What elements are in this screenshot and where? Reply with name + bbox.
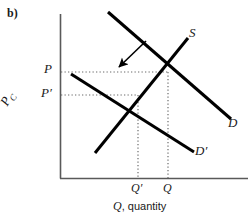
quantity-label-Q-prime: Q′: [131, 182, 142, 194]
quantity-axis-title-symbol: Q: [113, 199, 122, 213]
demand-curve: [108, 12, 231, 119]
price-label-P-prime: P′: [41, 86, 52, 99]
panel-label: b): [7, 7, 18, 19]
quantity-axis-title-rest: , quantity: [122, 200, 167, 212]
demand-curve-shifted-label: D′: [195, 144, 207, 157]
price-label-P: P: [44, 62, 52, 75]
diagram-canvas: [0, 0, 248, 219]
demand-shift-arrow: [119, 41, 146, 67]
quantity-axis-title: Q, quantity: [113, 200, 166, 212]
supply-curve: [95, 38, 188, 153]
quantity-label-Q: Q: [163, 182, 172, 194]
supply-curve-label: S: [189, 26, 196, 39]
supply-demand-figure: b) P P′ PC S D D′ Q′ Q Q, quantity: [0, 0, 248, 219]
demand-curve-shifted: [71, 74, 194, 152]
demand-curve-label: D: [228, 116, 237, 129]
